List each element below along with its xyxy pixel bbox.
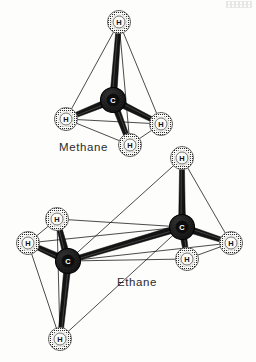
hydrogen-atom: H xyxy=(108,11,131,34)
bond-rod xyxy=(179,164,186,220)
carbon-atom: C xyxy=(101,88,126,113)
atom-symbol-label: H xyxy=(116,18,121,27)
atom-symbol-label: H xyxy=(179,154,184,163)
hydrogen-atom: H xyxy=(49,328,72,351)
atom-symbol-label: H xyxy=(228,239,233,248)
atom-symbol-label: H xyxy=(54,215,59,224)
atom-symbol-label: H xyxy=(25,239,30,248)
molecule-label-methane: Methane xyxy=(59,141,108,153)
atom-symbol-label: H xyxy=(158,120,163,129)
molecular-models-figure: CHHHHCCHHHHHH Methane Ethane xyxy=(0,0,256,362)
hydrogen-atom: H xyxy=(55,108,78,131)
atom-symbol-label: C xyxy=(110,96,116,105)
atom-symbol-label: H xyxy=(63,115,68,124)
atom-symbol-label: H xyxy=(57,335,62,344)
carbon-atom: C xyxy=(56,249,81,274)
hydrogen-atom: H xyxy=(150,113,173,136)
hydrogen-atom: H xyxy=(171,147,194,170)
bond-highlight xyxy=(75,230,176,260)
atom-spheres-layer: CHHHHCCHHHHHH xyxy=(17,11,243,351)
hydrogen-atom: H xyxy=(220,232,243,255)
atom-symbol-label: H xyxy=(184,255,189,264)
bond-rod xyxy=(58,268,70,333)
hydrogen-atom: H xyxy=(17,232,40,255)
molecule-canvas: CHHHHCCHHHHHH xyxy=(0,0,256,362)
tetrahedron-edge xyxy=(57,219,182,227)
hydrogen-atom: H xyxy=(46,208,69,231)
atom-symbol-label: C xyxy=(179,223,185,232)
tetrahedron-edges-layer xyxy=(28,22,231,339)
atom-symbol-label: C xyxy=(65,257,71,266)
molecule-label-ethane: Ethane xyxy=(117,276,157,288)
hydrogen-atom: H xyxy=(119,134,142,157)
atom-symbol-label: H xyxy=(127,141,132,150)
bond-rod xyxy=(110,28,121,93)
hydrogen-atom: H xyxy=(176,248,199,271)
bond-rod xyxy=(74,226,176,262)
carbon-atom: C xyxy=(170,215,195,240)
